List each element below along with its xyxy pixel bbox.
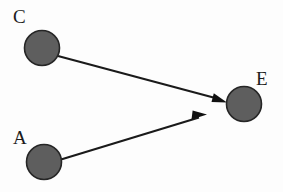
node-circle-a[interactable] [27,145,62,180]
node-label-c: C [13,7,26,26]
edge-c-to-e[interactable] [58,56,227,103]
diagram-canvas: C E A [0,0,283,192]
edge-line-a-to-e [61,118,199,160]
graph-svg [0,0,283,192]
node-label-a: A [13,128,27,147]
node-circle-c[interactable] [25,31,60,66]
edge-line-c-to-e [58,56,219,99]
node-label-e: E [256,69,268,88]
node-circle-e[interactable] [227,87,262,122]
arrowhead-a-to-e [192,110,208,119]
edge-a-to-e[interactable] [61,110,207,159]
arrowhead-c-to-e [212,93,228,102]
